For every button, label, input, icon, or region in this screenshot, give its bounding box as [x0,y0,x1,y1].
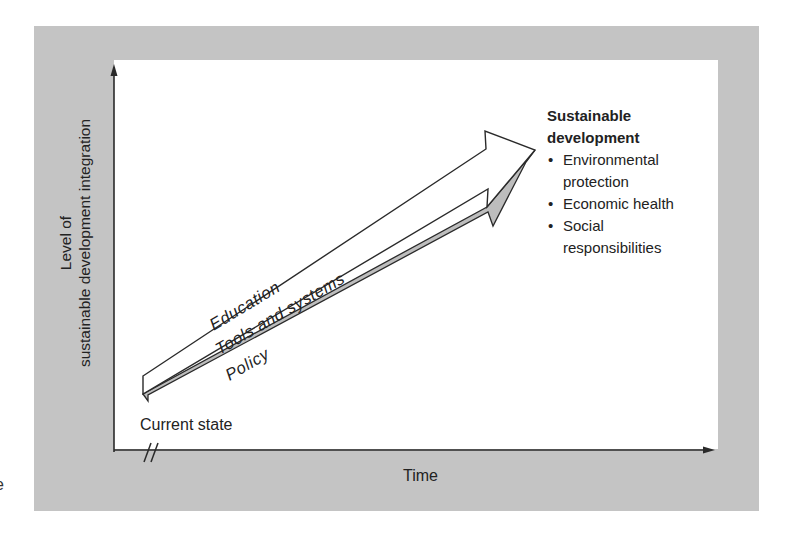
goal-item-economic: Economic health [547,193,674,215]
goal-item-text: responsibilities [563,237,674,259]
y-axis-label: Level of sustainable development integra… [56,83,94,403]
progress-arrow [143,131,535,401]
y-axis [111,64,118,452]
goal-item-text: Environmental [563,149,674,171]
current-state-label: Current state [140,416,232,434]
x-axis-arrowhead-icon [703,447,715,454]
goal-description: Sustainable development Environmental pr… [547,105,674,259]
clipped-glyph: e [0,476,4,494]
arrow-body [143,131,535,394]
goal-title: Sustainable development [547,105,674,149]
goal-item-text: Economic health [563,193,674,215]
axis-break-icon [144,443,158,462]
y-axis-arrowhead-icon [111,64,118,76]
goal-item-text: Social [563,215,674,237]
x-axis [114,447,715,454]
y-axis-label-line2: sustainable development integration [75,83,94,403]
goal-item-text: protection [563,171,674,193]
diagram-graphics [0,0,789,540]
goal-list: Environmental protection Economic health… [547,149,674,259]
y-axis-label-line1: Level of [56,83,75,403]
x-axis-label: Time [403,467,438,485]
goal-title-line2: development [547,127,674,149]
goal-title-line1: Sustainable [547,105,674,127]
goal-item-environmental: Environmental protection [547,149,674,193]
goal-item-social: Social responsibilities [547,215,674,259]
